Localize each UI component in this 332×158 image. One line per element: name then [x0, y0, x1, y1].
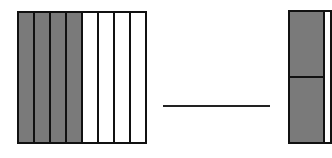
shaded-cell — [290, 12, 323, 76]
fraction-model-halves — [288, 10, 332, 144]
shaded-strip — [19, 13, 35, 142]
answer-blank-line — [163, 105, 270, 107]
shaded-cell — [290, 76, 323, 142]
model-column — [290, 12, 325, 142]
blank-strip — [131, 13, 145, 142]
shaded-strip — [51, 13, 67, 142]
blank-strip — [99, 13, 115, 142]
shaded-strip — [67, 13, 83, 142]
shaded-strip — [35, 13, 51, 142]
fraction-model-eighths — [17, 11, 147, 144]
blank-strip — [115, 13, 131, 142]
blank-strip — [83, 13, 99, 142]
